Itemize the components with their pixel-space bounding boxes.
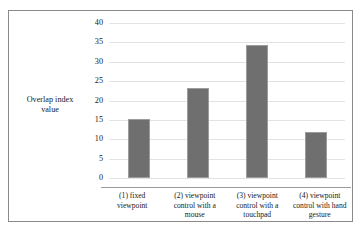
y-axis-tick-label: 20 (83, 97, 103, 105)
y-axis-tick-label: 35 (83, 38, 103, 46)
y-axis-tick-label: 5 (83, 155, 103, 163)
y-axis-tick-label: 10 (83, 135, 103, 143)
y-axis-tick-label: 40 (83, 19, 103, 27)
category-label-line: (3) viewpoint (227, 191, 288, 201)
bar (187, 88, 209, 178)
category-label-line: viewpoint (102, 201, 163, 211)
category-label-line: (4) viewpoint (290, 191, 351, 201)
y-axis-title-line-2: value (13, 105, 87, 115)
category-label-line: touchpad (227, 210, 288, 220)
gridline (109, 42, 345, 43)
category-label-line: control with a (227, 201, 288, 211)
gridline (109, 81, 345, 82)
category-label-line: gesture (290, 210, 351, 220)
chart-figure: Overlap index value 0510152025303540 (1)… (8, 10, 353, 222)
y-axis-tick-label: 25 (83, 77, 103, 85)
plot-area (109, 23, 345, 178)
x-axis-category-labels: (1) fixedviewpoint(2) viewpointcontrol w… (101, 191, 351, 231)
y-axis-tick-label: 30 (83, 58, 103, 66)
x-axis-category-label: (4) viewpointcontrol with handgesture (289, 191, 352, 231)
category-label-line: mouse (165, 210, 226, 220)
category-label-line: control with a (165, 201, 226, 211)
gridline (109, 23, 345, 24)
gridline (109, 101, 345, 102)
category-label-line: (1) fixed (102, 191, 163, 201)
category-label-line: control with hand (290, 201, 351, 211)
bar (128, 119, 150, 178)
x-axis-category-label: (3) viewpointcontrol with atouchpad (226, 191, 289, 231)
bar (305, 132, 327, 179)
category-label-line: (2) viewpoint (165, 191, 226, 201)
x-axis-category-label: (2) viewpointcontrol with amouse (164, 191, 227, 231)
x-axis-line (101, 187, 351, 188)
gridline (109, 178, 345, 179)
bar (246, 45, 268, 178)
y-axis-title-line-1: Overlap index (13, 95, 87, 105)
y-axis-tick-label: 15 (83, 116, 103, 124)
y-axis-title: Overlap index value (13, 95, 87, 115)
y-axis-tick-label: 0 (83, 174, 103, 182)
gridline (109, 62, 345, 63)
x-axis-category-label: (1) fixedviewpoint (101, 191, 164, 231)
